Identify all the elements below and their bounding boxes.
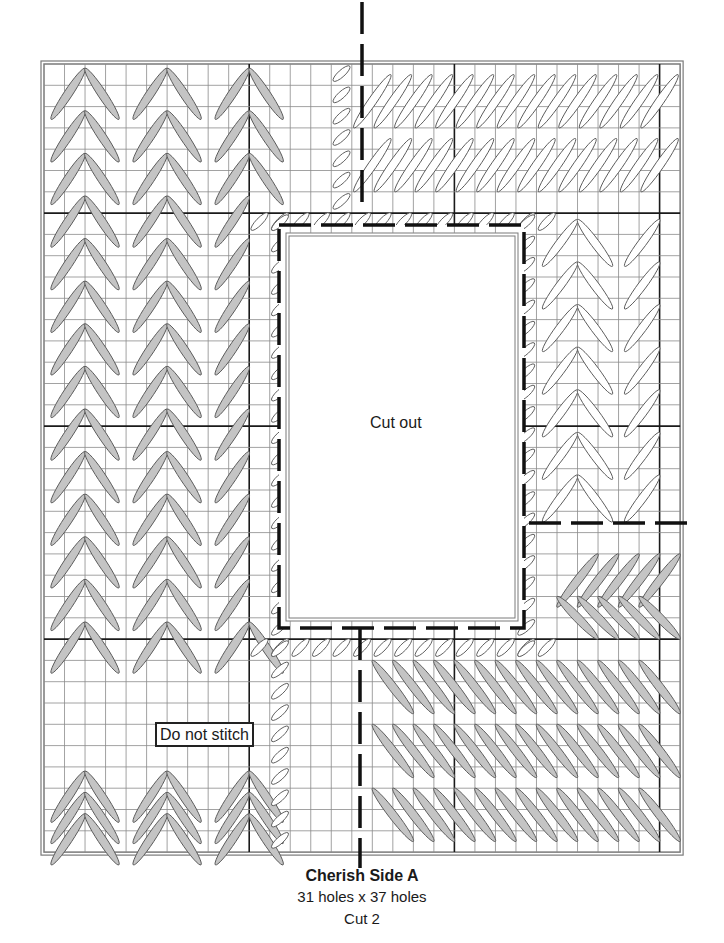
needlepoint-chart [0,0,724,943]
cut-out-label: Cut out [370,414,422,432]
cut-count: Cut 2 [0,910,724,927]
chart-title: Cherish Side A [0,867,724,885]
chart-size: 31 holes x 37 holes [0,888,724,905]
do-not-stitch-label: Do not stitch [155,722,254,747]
